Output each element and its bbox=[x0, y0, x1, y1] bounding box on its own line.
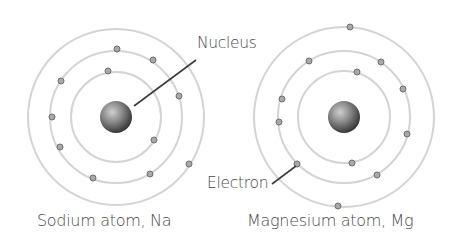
sodium-caption: Sodium atom, Na bbox=[37, 211, 171, 230]
electron bbox=[306, 58, 312, 64]
electron bbox=[400, 86, 406, 92]
electron bbox=[58, 78, 64, 84]
electron bbox=[176, 93, 182, 99]
electron bbox=[374, 172, 380, 178]
electron bbox=[90, 175, 96, 181]
na-atom bbox=[28, 29, 204, 205]
electron bbox=[276, 119, 282, 125]
electron bbox=[354, 69, 360, 75]
nucleus-leader-line bbox=[134, 60, 196, 106]
electron bbox=[105, 68, 111, 74]
electron bbox=[404, 131, 410, 137]
leader-lines bbox=[134, 60, 296, 184]
electron bbox=[279, 96, 285, 102]
electron bbox=[57, 144, 63, 150]
nucleus-label: Nucleus bbox=[197, 34, 257, 52]
electron bbox=[347, 24, 353, 30]
electron bbox=[349, 160, 355, 166]
nucleus bbox=[328, 101, 360, 133]
mg-atom bbox=[254, 24, 434, 209]
nucleus bbox=[100, 101, 132, 133]
electron-label: Electron bbox=[207, 174, 268, 192]
electron bbox=[147, 171, 153, 177]
electron bbox=[150, 57, 156, 63]
electron bbox=[378, 59, 384, 65]
electron bbox=[114, 46, 120, 52]
magnesium-caption: Magnesium atom, Mg bbox=[247, 211, 413, 230]
electron bbox=[151, 137, 157, 143]
electron bbox=[335, 203, 341, 209]
electron bbox=[186, 161, 192, 167]
electron bbox=[49, 114, 55, 120]
